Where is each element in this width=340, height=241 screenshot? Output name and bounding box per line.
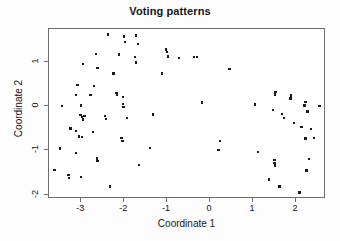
data-point: [310, 128, 312, 130]
data-point: [167, 55, 169, 57]
data-point: [93, 85, 95, 87]
x-axis-tick-label: -1: [154, 203, 178, 213]
data-point: [217, 149, 219, 151]
data-point: [278, 185, 280, 187]
data-point: [116, 94, 118, 96]
data-point: [96, 160, 98, 162]
data-point: [303, 104, 305, 106]
data-point: [283, 117, 285, 119]
data-point: [118, 53, 120, 55]
data-point: [274, 93, 276, 95]
data-point: [59, 147, 61, 149]
x-axis-tick-label: -3: [68, 203, 92, 213]
data-point: [178, 57, 180, 59]
y-axis-tick-label: -2: [28, 187, 42, 201]
data-point: [135, 61, 137, 63]
data-point: [123, 35, 125, 37]
data-point: [122, 96, 124, 98]
x-axis-tick: [252, 198, 253, 202]
x-axis-tick-label: 2: [283, 203, 307, 213]
data-point: [313, 137, 315, 139]
data-point: [289, 97, 291, 99]
data-point: [82, 118, 84, 120]
data-point: [112, 72, 114, 74]
data-point: [274, 164, 276, 166]
data-point: [105, 118, 107, 120]
data-point: [121, 140, 123, 142]
data-point: [272, 109, 274, 111]
data-point: [281, 113, 283, 115]
data-point: [124, 41, 126, 43]
data-point: [268, 178, 270, 180]
data-point: [61, 105, 63, 107]
data-point: [300, 126, 302, 128]
data-point: [298, 191, 300, 193]
data-point: [166, 51, 168, 53]
data-point: [138, 164, 140, 166]
page-title: Voting patterns: [0, 5, 340, 17]
x-axis-tick-label: 1: [240, 203, 264, 213]
data-point: [89, 94, 91, 96]
data-point: [75, 152, 77, 154]
data-point: [304, 137, 306, 139]
y-axis-tick: [44, 194, 48, 195]
data-point: [257, 151, 259, 153]
data-point: [201, 101, 203, 103]
y-axis-tick: [44, 149, 48, 150]
data-point: [95, 53, 97, 55]
data-point: [122, 103, 124, 105]
data-points-layer: [49, 29, 324, 197]
data-point: [152, 113, 154, 115]
data-point: [107, 33, 109, 35]
data-point: [137, 43, 139, 45]
data-point: [305, 169, 307, 171]
data-point: [83, 115, 85, 117]
data-point: [81, 136, 83, 138]
data-point: [92, 131, 94, 133]
data-point: [80, 176, 82, 178]
data-point: [196, 56, 198, 58]
data-point: [75, 94, 77, 96]
data-point: [76, 84, 78, 86]
x-axis-tick: [295, 198, 296, 202]
y-axis-tick: [44, 105, 48, 106]
data-point: [82, 63, 84, 65]
data-point: [306, 110, 308, 112]
y-axis-tick-label: 1: [28, 54, 42, 68]
x-axis-tick: [123, 198, 124, 202]
y-axis-tick-label: -1: [28, 142, 42, 156]
data-point: [134, 56, 136, 58]
scatter-plot-figure: Voting patterns Coordinate 1 Coordinate …: [0, 0, 340, 241]
data-point: [122, 106, 124, 108]
data-point: [96, 67, 98, 69]
data-point: [293, 122, 295, 124]
plot-area: [48, 28, 325, 198]
data-point: [254, 103, 256, 105]
data-point: [228, 68, 230, 70]
x-axis-tick: [166, 198, 167, 202]
y-axis-tick: [44, 61, 48, 62]
data-point: [126, 117, 128, 119]
data-point: [318, 105, 320, 107]
data-point: [104, 115, 106, 117]
x-axis-tick-label: 0: [197, 203, 221, 213]
data-point: [304, 101, 306, 103]
y-axis-tick-label: 0: [28, 98, 42, 112]
data-point: [69, 127, 71, 129]
data-point: [308, 158, 310, 160]
data-point: [149, 147, 151, 149]
x-axis-tick-label: -2: [111, 203, 135, 213]
data-point: [135, 34, 137, 36]
data-point: [53, 169, 55, 171]
data-point: [67, 174, 69, 176]
data-point: [75, 130, 77, 132]
data-point: [80, 104, 82, 106]
x-axis-tick: [209, 198, 210, 202]
y-axis-label: Coordinate 2: [13, 54, 24, 164]
data-point: [161, 72, 163, 74]
x-axis-tick: [80, 198, 81, 202]
x-axis-label: Coordinate 1: [48, 218, 325, 229]
data-point: [219, 140, 221, 142]
data-point: [109, 185, 111, 187]
data-point: [120, 137, 122, 139]
